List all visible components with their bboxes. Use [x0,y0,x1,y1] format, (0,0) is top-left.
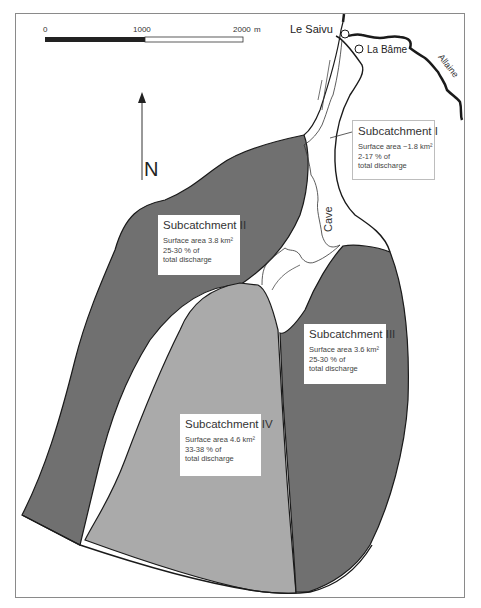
scale-bar-dark [45,37,145,42]
scale-tick-1000: 1000 [133,25,151,34]
valley-boundary [304,22,343,135]
place-le-saivu: Le Saivu [290,23,333,35]
subcatchment-title: Subcatchment I [358,125,429,137]
subcatchment-title: Subcatchment II [163,219,235,231]
leader-line [330,132,352,138]
discharge-percent: 25-30 % of [309,355,381,365]
spring-le-saivu [341,30,349,38]
subcatchment-title: Subcatchment III [309,328,381,340]
subcatchment-iii-label: Subcatchment III Surface area 3.6 km² 25… [304,324,386,384]
catchment-map [0,0,481,608]
river-upstream [343,14,344,22]
discharge-percent: 2-17 % of [358,152,429,162]
surface-area: Surface area 3.8 km² [163,236,235,246]
subcatchment-title: Subcatchment IV [185,418,256,430]
cave-label: Cave [322,206,334,232]
subcatchment-iii-area [280,245,408,592]
scale-tick-0: 0 [43,25,47,34]
north-arrow-icon [138,92,146,103]
scale-tick-2000: 2000 [233,25,251,34]
subcatchment-iv-label: Subcatchment IV Surface area 4.6 km² 33-… [180,414,261,476]
surface-area: Surface area 4.6 km² [185,435,256,445]
place-la-bame: La Bâme [367,44,407,55]
discharge-note: total discharge [185,454,256,464]
discharge-percent: 33-38 % of [185,445,256,455]
subcatchment-ii-label: Subcatchment II Surface area 3.8 km² 25-… [158,215,240,275]
subcatchment-i-label: Subcatchment I Surface area ~1.8 km² 2-1… [352,120,435,180]
discharge-note: total discharge [163,255,235,265]
scale-bar-light [145,37,243,42]
north-label: N [144,158,158,181]
spring-la-bame [355,45,363,53]
discharge-note: total discharge [309,364,381,374]
scale-unit: m [254,25,261,34]
discharge-percent: 25-30 % of [163,246,235,256]
surface-area: Surface area ~1.8 km² [358,142,429,152]
surface-area: Surface area 3.6 km² [309,345,381,355]
discharge-note: total discharge [358,161,429,171]
